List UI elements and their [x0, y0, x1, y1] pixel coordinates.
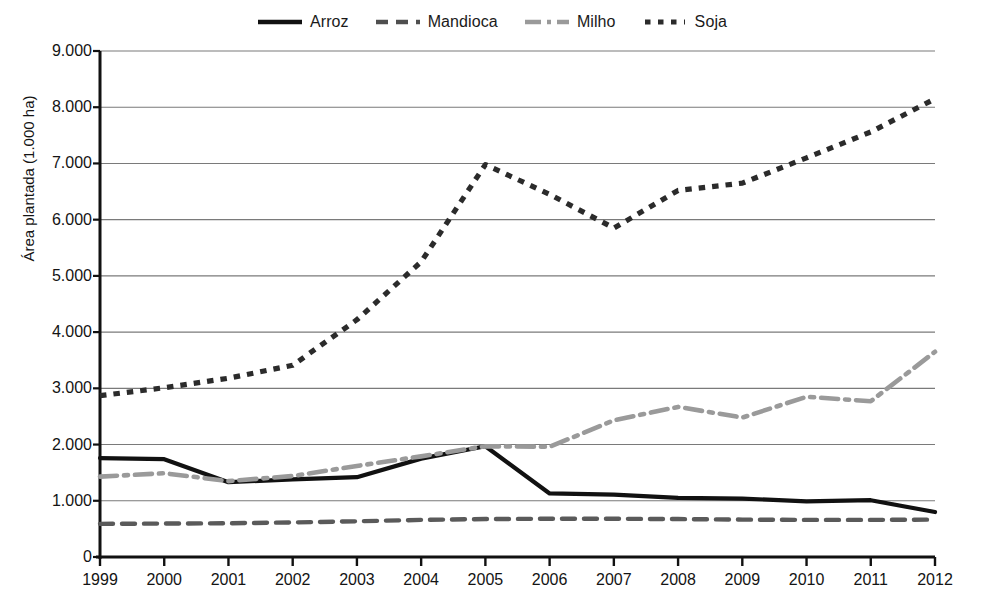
x-axis-tick-label: 2009: [725, 571, 761, 589]
x-axis-tick-label: 2010: [789, 571, 825, 589]
plot-area: 01.0002.0003.0004.0005.0006.0007.0008.00…: [0, 0, 984, 602]
x-axis-tick-label: 2001: [211, 571, 247, 589]
x-axis-tick-label: 1999: [82, 571, 118, 589]
line-chart: Arroz Mandioca Milho: [0, 0, 984, 602]
x-axis-tick-label: 2002: [275, 571, 311, 589]
x-axis-ticks: 1999200020012002200320042005200620072008…: [0, 0, 984, 602]
x-axis-tick-label: 2006: [532, 571, 568, 589]
x-axis-tick-label: 2005: [468, 571, 504, 589]
x-axis-tick-label: 2011: [854, 571, 888, 589]
x-axis-tick-label: 2004: [403, 571, 439, 589]
x-axis-tick-label: 2012: [917, 571, 953, 589]
x-axis-tick-label: 2000: [146, 571, 182, 589]
x-axis-tick-label: 2008: [660, 571, 696, 589]
x-axis-tick-label: 2003: [339, 571, 375, 589]
y-axis-title: Área plantada (1.000 ha): [20, 59, 37, 299]
x-axis-tick-label: 2007: [596, 571, 632, 589]
